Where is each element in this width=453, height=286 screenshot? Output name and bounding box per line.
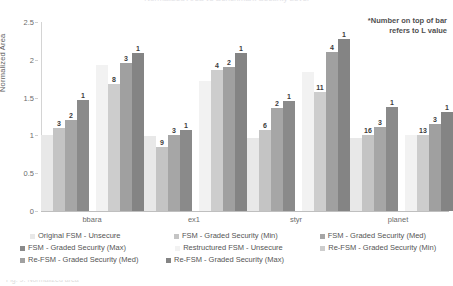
x-category-label: bbara bbox=[41, 213, 143, 227]
bar-slot: 1 bbox=[235, 22, 247, 211]
bar[interactable] bbox=[156, 147, 168, 211]
bar-slot bbox=[144, 22, 156, 211]
bar[interactable] bbox=[326, 52, 338, 211]
y-tick-label: 0 bbox=[30, 207, 34, 216]
legend-label: Re-FSM - Graded Security (Med) bbox=[28, 254, 138, 266]
bar-value-label: 9 bbox=[160, 139, 164, 146]
y-axis-labels: 00.511.522.5 bbox=[0, 0, 38, 212]
y-tick-mark bbox=[35, 173, 38, 174]
bar[interactable] bbox=[53, 128, 65, 211]
bar[interactable] bbox=[96, 65, 108, 211]
legend-item-fsm-graded-max[interactable]: FSM - Graded Security (Max) bbox=[20, 242, 161, 254]
legend-item-fsm-graded-med[interactable]: FSM - Graded Security (Med) bbox=[320, 230, 444, 242]
y-tick-label: 0.5 bbox=[24, 169, 34, 178]
bar[interactable] bbox=[259, 130, 271, 211]
bar-slot: 16 bbox=[362, 22, 374, 211]
bar[interactable] bbox=[77, 100, 89, 211]
bar-slot bbox=[302, 22, 314, 211]
bar-value-label: 3 bbox=[378, 119, 382, 126]
legend-swatch-icon bbox=[175, 246, 180, 251]
legend-swatch-icon bbox=[20, 258, 25, 263]
legend-swatch-icon bbox=[320, 234, 325, 239]
bar-slot: 4 bbox=[326, 22, 338, 211]
legend-label: Original FSM - Unsecure bbox=[38, 230, 121, 242]
bar-value-label: 8 bbox=[112, 76, 116, 83]
legend-item-original-fsm-unsecure[interactable]: Original FSM - Unsecure bbox=[20, 230, 172, 242]
bar[interactable] bbox=[223, 67, 235, 211]
legend-swatch-icon bbox=[30, 234, 35, 239]
y-tick-label: 2 bbox=[30, 55, 34, 64]
bar-slot bbox=[405, 22, 417, 211]
bar[interactable] bbox=[235, 53, 247, 211]
bar-value-label: 3 bbox=[172, 127, 176, 134]
bar[interactable] bbox=[247, 138, 259, 211]
y-tick-mark bbox=[35, 211, 38, 212]
legend-item-refsm-graded-max[interactable]: Re-FSM - Graded Security (Max) bbox=[166, 254, 316, 266]
bar-slot: 11 bbox=[314, 22, 326, 211]
legend-label: FSM - Graded Security (Min) bbox=[182, 230, 278, 242]
bar-slot bbox=[350, 22, 362, 211]
bar-value-label: 6 bbox=[263, 122, 267, 129]
bar-slot: 1 bbox=[180, 22, 192, 211]
bar-value-label: 3 bbox=[124, 55, 128, 62]
bar[interactable] bbox=[350, 138, 362, 211]
x-category-label: styr bbox=[245, 213, 347, 227]
bar-slot bbox=[41, 22, 53, 211]
y-tick-mark bbox=[35, 22, 38, 23]
bar-slot: 1 bbox=[338, 22, 350, 211]
bar-group: 6211141 bbox=[247, 22, 350, 211]
bar-slot bbox=[96, 22, 108, 211]
legend-row-2: FSM - Graded Security (Max) Restructured… bbox=[20, 242, 444, 254]
bar-value-label: 1 bbox=[287, 93, 291, 100]
bar[interactable] bbox=[338, 39, 350, 211]
bar[interactable] bbox=[441, 112, 453, 211]
bar[interactable] bbox=[144, 136, 156, 211]
bar-value-label: 1 bbox=[445, 104, 449, 111]
bar[interactable] bbox=[168, 135, 180, 211]
bar[interactable] bbox=[120, 63, 132, 211]
legend-item-refsm-graded-med[interactable]: Re-FSM - Graded Security (Med) bbox=[20, 254, 166, 266]
bar-slot: 1 bbox=[283, 22, 295, 211]
bar[interactable] bbox=[199, 81, 211, 211]
bar[interactable] bbox=[211, 70, 223, 211]
bar-groups: 321831931421621114116311331 bbox=[41, 22, 449, 211]
legend-label: FSM - Graded Security (Med) bbox=[328, 230, 426, 242]
bar-slot: 2 bbox=[223, 22, 235, 211]
bar[interactable] bbox=[314, 92, 326, 211]
bar[interactable] bbox=[180, 130, 192, 211]
bar-group-divider bbox=[398, 22, 405, 211]
bar[interactable] bbox=[302, 72, 314, 211]
bar-value-label: 2 bbox=[69, 112, 73, 119]
legend-item-refsm-graded-min[interactable]: Re-FSM - Graded Security (Min) bbox=[320, 242, 444, 254]
bar-slot: 3 bbox=[120, 22, 132, 211]
bar-value-label: 4 bbox=[215, 62, 219, 69]
bar[interactable] bbox=[41, 135, 53, 211]
legend-swatch-icon bbox=[166, 258, 171, 263]
y-tick-label: 2.5 bbox=[24, 18, 34, 27]
legend-item-restructured-fsm-unsecure[interactable]: Restructured FSM - Unsecure bbox=[161, 242, 320, 254]
bar[interactable] bbox=[283, 101, 295, 211]
bar[interactable] bbox=[405, 135, 417, 211]
bar[interactable] bbox=[362, 135, 374, 211]
y-tick-mark bbox=[35, 135, 38, 136]
legend-item-fsm-graded-min[interactable]: FSM - Graded Security (Min) bbox=[172, 230, 320, 242]
bar-slot: 2 bbox=[65, 22, 77, 211]
bar-slot: 1 bbox=[132, 22, 144, 211]
bar[interactable] bbox=[65, 120, 77, 211]
bar[interactable] bbox=[386, 107, 398, 211]
bar[interactable] bbox=[132, 53, 144, 211]
x-axis-category-labels: bbaraex1styrplanet bbox=[41, 213, 449, 227]
bar[interactable] bbox=[374, 127, 386, 211]
bar[interactable] bbox=[417, 135, 429, 211]
bar[interactable] bbox=[108, 84, 120, 211]
bar-value-label: 2 bbox=[275, 100, 279, 107]
bar-slot: 9 bbox=[156, 22, 168, 211]
legend-swatch-icon bbox=[174, 234, 179, 239]
legend-row-3: Re-FSM - Graded Security (Med) Re-FSM - … bbox=[20, 254, 444, 266]
bar[interactable] bbox=[429, 124, 441, 211]
legend-label: Re-FSM - Graded Security (Min) bbox=[328, 242, 436, 254]
bar-slot: 3 bbox=[374, 22, 386, 211]
legend-row-1: Original FSM - Unsecure FSM - Graded Sec… bbox=[20, 230, 444, 242]
chart-annotation: *Number on top of bar refers to L value bbox=[329, 16, 447, 36]
bar[interactable] bbox=[271, 108, 283, 211]
